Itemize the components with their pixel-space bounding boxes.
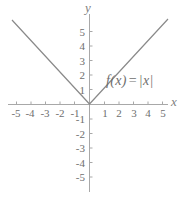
y-axis-label: y (85, 1, 91, 14)
y-tick-label--1: -1 (68, 114, 85, 125)
x-tick-label--5: -5 (11, 108, 20, 119)
y-tick-label--5: -5 (68, 172, 85, 183)
x-tick-label-3: 3 (131, 108, 137, 119)
y-tick-label-3: 3 (72, 56, 85, 67)
x-tick-label--3: -3 (40, 108, 49, 119)
absolute-value-function-graph: y x -5 -4 -3 -2 -1 1 2 3 4 5 5 4 3 2 1 -… (0, 0, 191, 200)
x-tick-label--2: -2 (55, 108, 64, 119)
y-tick-label-2: 2 (72, 70, 85, 81)
x-axis-label: x (171, 95, 177, 108)
x-tick-label-1: 1 (102, 108, 108, 119)
x-tick-label-4: 4 (145, 108, 151, 119)
graph-canvas (0, 0, 191, 200)
y-tick-label-1: 1 (72, 85, 85, 96)
y-tick-label--4: -4 (68, 158, 85, 169)
y-tick-label-4: 4 (72, 41, 85, 52)
y-tick-label--3: -3 (68, 143, 85, 154)
x-tick-label--4: -4 (25, 108, 34, 119)
x-tick-label-5: 5 (160, 108, 166, 119)
function-equals: = (127, 73, 139, 88)
x-tick-label-2: 2 (116, 108, 122, 119)
function-paren-close: ) (122, 73, 127, 88)
function-annotation: f(x)=|x| (106, 74, 154, 88)
y-tick-label-5: 5 (72, 27, 85, 38)
y-tick-label--2: -2 (68, 129, 85, 140)
function-expression: |x| (139, 73, 154, 88)
